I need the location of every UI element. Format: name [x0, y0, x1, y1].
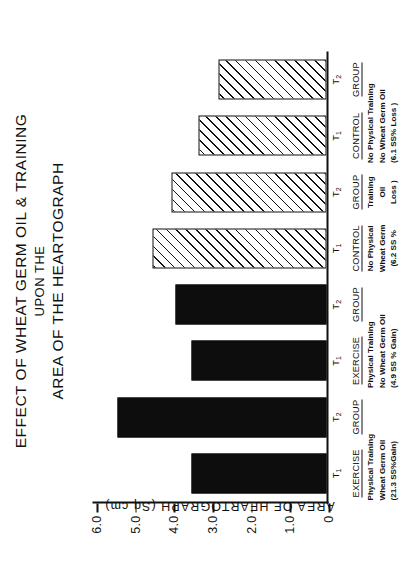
category-label: T2GROUP	[330, 276, 398, 332]
category-group-label: GROUP	[350, 62, 363, 97]
category-tier-label: T2	[330, 277, 344, 331]
bar-slot	[94, 164, 326, 220]
category-tier-label: T1	[330, 108, 344, 162]
category-description-line-1: Physical Training	[365, 446, 374, 500]
axis-tick-label: 3.0	[206, 515, 218, 533]
bar-1	[191, 453, 326, 493]
category-description-line-1: No Physical Training	[365, 108, 374, 162]
category-tier-label: T2	[330, 52, 344, 106]
bar-slot	[94, 220, 326, 276]
bar-7	[198, 115, 326, 155]
category-description-line-3: (4.9 SS % Gain)	[388, 333, 397, 387]
category-group-label-wrap: GROUP	[344, 390, 363, 444]
axis-tick-label: 6.0	[90, 515, 102, 533]
category-description-line-3: (6.2 SS %	[388, 221, 397, 275]
category-tier-label: T2	[330, 165, 344, 219]
bar-slot	[94, 445, 326, 501]
title-subline-2: AREA OF THE HEARTOGRAPH	[47, 0, 67, 561]
category-group-label: CONTROL	[350, 225, 363, 271]
bar-slot	[94, 332, 326, 388]
category-label: T1CONTROLNo PhysicalWheat Germ(6.2 SS %	[330, 220, 398, 276]
bar-slot	[94, 51, 326, 107]
bar-4	[175, 284, 326, 324]
category-label: T2GROUPTrainingOilLoss )	[330, 164, 398, 220]
category-description-line-1: No Physical	[365, 221, 374, 275]
category-label: T1EXERCISEPhysical TrainingWheat Germ Oi…	[330, 445, 398, 501]
axis-tick-label: 1.0	[283, 515, 295, 533]
category-group-label: GROUP	[350, 399, 363, 434]
bar-3	[191, 340, 326, 380]
category-label: T2GROUP	[330, 51, 398, 107]
category-description-line-2: No Wheat Germ Oil	[377, 333, 386, 387]
category-description-line-2: Oil	[377, 165, 386, 219]
category-group-label: GROUP	[350, 174, 363, 209]
plot-area	[96, 51, 328, 503]
category-label-row: T1EXERCISEPhysical TrainingWheat Germ Oi…	[330, 51, 398, 501]
title-subline-1: UPON THE	[30, 0, 47, 561]
category-description-line-2: Wheat Germ Oil	[377, 446, 386, 500]
category-group-label: EXERCISE	[350, 449, 363, 497]
category-group-label-wrap: GROUP	[344, 277, 363, 331]
category-group-label: CONTROL	[350, 112, 363, 158]
category-description-line-3: (21.3 SS%Gain)	[388, 446, 397, 500]
category-tier-label: T1	[330, 446, 344, 500]
category-description-line-2: Wheat Germ	[377, 221, 386, 275]
category-label: T1EXERCISEPhysical TrainingNo Wheat Germ…	[330, 332, 398, 388]
category-label: T1CONTROLNo Physical TrainingNo Wheat Ge…	[330, 107, 398, 163]
chart-title-block: EFFECT OF WHEAT GERM OIL & TRAINING UPON…	[10, 0, 67, 561]
chart-figure: EFFECT OF WHEAT GERM OIL & TRAINING UPON…	[0, 0, 401, 561]
bar-series	[94, 51, 326, 501]
category-tier-label: T1	[330, 221, 344, 275]
category-description-line-1: Physical Training	[365, 333, 374, 387]
bar-2	[117, 397, 326, 437]
category-tier-label: T2	[330, 390, 344, 444]
bar-slot	[94, 107, 326, 163]
bar-8	[218, 59, 326, 99]
axis-tick-label: 2.0	[245, 515, 257, 533]
category-group-label-wrap: CONTROL	[344, 221, 363, 275]
category-group-label-wrap: EXERCISE	[344, 446, 363, 500]
axis-tick-label: 0	[322, 515, 334, 522]
category-description-line-1: Training	[365, 165, 374, 219]
figure-rotator: EFFECT OF WHEAT GERM OIL & TRAINING UPON…	[0, 0, 401, 561]
category-group-label-wrap: GROUP	[344, 52, 363, 106]
category-group-label-wrap: EXERCISE	[344, 333, 363, 387]
bar-6	[171, 172, 326, 212]
axis-tick-label: 4.0	[167, 515, 179, 533]
axis-tick-label: 5.0	[129, 515, 141, 533]
bar-slot	[94, 389, 326, 445]
category-group-label-wrap: CONTROL	[344, 108, 363, 162]
category-description-line-2: No Wheat Germ Oil	[377, 108, 386, 162]
bar-5	[152, 228, 326, 268]
category-group-label-wrap: GROUP	[344, 165, 363, 219]
category-description-line-3: Loss )	[388, 165, 397, 219]
category-group-label: GROUP	[350, 287, 363, 322]
bar-slot	[94, 276, 326, 332]
category-tier-label: T1	[330, 333, 344, 387]
category-label: T2GROUP	[330, 389, 398, 445]
category-description-line-3: (6.1 SS% Loss )	[388, 108, 397, 162]
page-title: EFFECT OF WHEAT GERM OIL & TRAINING	[10, 0, 30, 561]
category-group-label: EXERCISE	[350, 336, 363, 384]
